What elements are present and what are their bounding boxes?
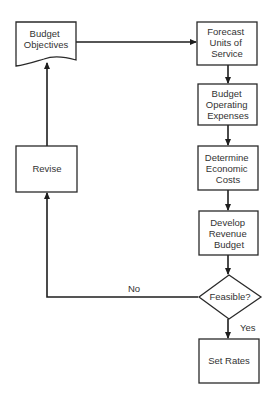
flowchart: Yes No Budget Objectives Forecast Units … — [0, 0, 272, 399]
node-forecast-units[interactable]: Forecast Units of Service — [197, 22, 257, 65]
edge-label-no: No — [128, 283, 140, 294]
node-label: Budget Objectives — [24, 28, 69, 50]
node-budget-operating[interactable]: Budget Operating Expenses — [198, 84, 257, 125]
node-feasible-decision[interactable]: Feasible? — [199, 275, 261, 319]
node-develop-revenue[interactable]: Develop Revenue Budget — [199, 211, 258, 255]
node-label: Develop Revenue Budget — [209, 217, 250, 250]
node-label: Set Rates — [208, 355, 250, 366]
node-set-rates[interactable]: Set Rates — [199, 339, 259, 383]
edge-label-yes: Yes — [240, 322, 256, 333]
node-label: Feasible? — [209, 291, 250, 302]
edge-feasible-to-revise — [47, 193, 198, 297]
node-label: Revise — [32, 163, 61, 174]
node-label: Forecast Units of Service — [207, 26, 247, 59]
node-determine-costs[interactable]: Determine Economic Costs — [198, 146, 258, 190]
node-revise[interactable]: Revise — [16, 146, 77, 192]
node-budget-objectives[interactable]: Budget Objectives — [16, 22, 76, 66]
node-label: Budget Operating Expenses — [206, 88, 250, 121]
